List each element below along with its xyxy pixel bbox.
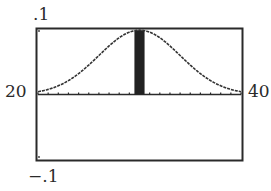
shaded-area: [134, 30, 144, 94]
graph-window: [0, 0, 271, 191]
corner-dot-top: [38, 30, 40, 32]
corner-dot-bottom: [38, 156, 40, 158]
